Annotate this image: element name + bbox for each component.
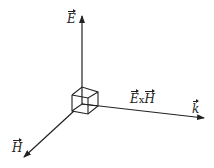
- e-label: E: [67, 13, 76, 25]
- k-label: k: [192, 103, 199, 115]
- cross-product-label: ExH: [130, 93, 155, 105]
- h-label: H: [12, 142, 22, 154]
- k-axis: [82, 104, 204, 118]
- axes-diagram: [0, 0, 214, 168]
- unit-cube: [72, 87, 98, 114]
- h-axis: [24, 111, 74, 157]
